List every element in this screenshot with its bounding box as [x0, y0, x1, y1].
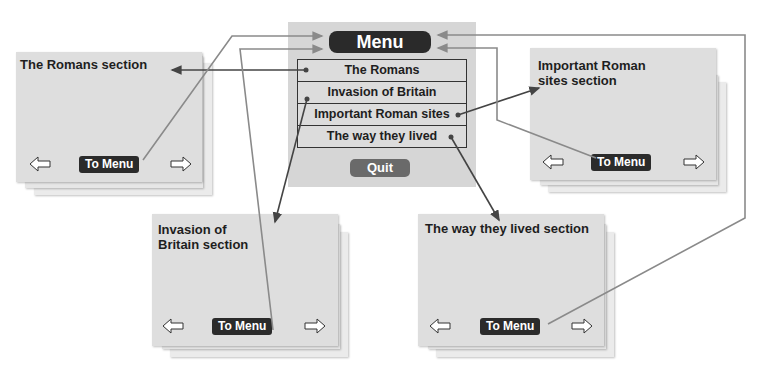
to-menu-button[interactable]: To Menu [591, 154, 651, 171]
left-arrow-icon[interactable] [162, 318, 184, 334]
section-title: Important Roman sites section [538, 58, 646, 88]
menu-item-invasion-of-britain[interactable]: Invasion of Britain [298, 82, 466, 104]
section-title: Invasion of Britain section [158, 222, 248, 252]
right-arrow-icon[interactable] [304, 318, 326, 334]
section-title-line: Important Roman [538, 58, 646, 73]
menu-item-the-way-they-lived[interactable]: The way they lived [298, 126, 466, 147]
section-title: The way they lived section [425, 221, 589, 236]
menu-title-button[interactable]: Menu [329, 31, 431, 53]
right-arrow-icon[interactable] [571, 318, 593, 334]
menu-item-important-roman-sites[interactable]: Important Roman sites [298, 104, 466, 126]
to-menu-button[interactable]: To Menu [79, 156, 139, 173]
quit-button[interactable]: Quit [350, 159, 410, 177]
section-title-line: sites section [538, 73, 646, 88]
section-title: The Romans section [20, 57, 147, 72]
section-title-line: Invasion of [158, 222, 248, 237]
menu-item-the-romans[interactable]: The Romans [298, 60, 466, 82]
right-arrow-icon[interactable] [170, 156, 192, 172]
left-arrow-icon[interactable] [29, 156, 51, 172]
left-arrow-icon[interactable] [542, 154, 564, 170]
to-menu-button[interactable]: To Menu [480, 318, 540, 335]
left-arrow-icon[interactable] [429, 318, 451, 334]
section-title-line: Britain section [158, 237, 248, 252]
right-arrow-icon[interactable] [683, 154, 705, 170]
menu-list: The Romans Invasion of Britain Important… [297, 59, 467, 148]
to-menu-button[interactable]: To Menu [212, 318, 272, 335]
